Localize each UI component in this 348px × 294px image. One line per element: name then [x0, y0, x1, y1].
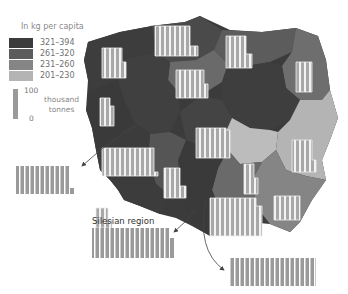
- map-figure: In kg per capita 321–394 261–320 231–260…: [0, 0, 348, 294]
- legend-label: 321–394: [40, 38, 75, 47]
- callout-bars-left: [16, 166, 70, 194]
- bar-block-podkarpackie: [274, 196, 300, 220]
- bar-block-lubelskie: [292, 140, 316, 172]
- legend-label: 201–230: [40, 71, 75, 80]
- scale-unit: thousand tonnes: [44, 95, 79, 115]
- legend-swatch: [9, 71, 33, 81]
- legend-swatch: [9, 49, 33, 59]
- scale-min-label: 0: [29, 114, 34, 123]
- legend-label: 231–260: [40, 60, 75, 69]
- legend-row-261-320: 261–320: [9, 48, 75, 59]
- silesian-region-label: Silesian region: [92, 216, 154, 226]
- bar-block-lodzkie: [196, 128, 230, 158]
- callout-bars-bottom: [230, 258, 316, 286]
- callout-bars-silesian: [92, 228, 170, 258]
- scale-bar: [13, 89, 18, 119]
- bar-block-zachodniopomorskie: [102, 48, 126, 78]
- bar-block-kujawsko: [176, 70, 208, 98]
- legend-title: In kg per capita: [21, 22, 84, 31]
- bar-block-podlaskie: [296, 62, 312, 92]
- legend-row-201-230: 201–230: [9, 70, 75, 81]
- scale-max-label: 100: [24, 86, 38, 95]
- bar-block-slaskie: [210, 198, 262, 236]
- bar-block-wielkopolskie: [102, 148, 158, 176]
- legend-label: 261–320: [40, 49, 75, 58]
- legend-row-321-394: 321–394: [9, 37, 75, 48]
- scale-unit-line2: tonnes: [44, 105, 79, 115]
- legend-swatch: [9, 38, 33, 48]
- scale-unit-line1: thousand: [44, 95, 79, 105]
- legend-swatch: [9, 60, 33, 70]
- legend-row-231-260: 231–260: [9, 59, 75, 70]
